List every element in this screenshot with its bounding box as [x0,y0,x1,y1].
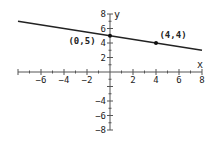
x-tick-label: −4 [59,75,70,85]
x-tick-label: −6 [36,75,47,85]
y-tick-label: −6 [95,111,106,121]
coordinate-plane: −6−4−224688642−4−6−8xy(0,5)(4,4) [0,0,215,145]
data-point [154,41,158,45]
y-tick-label: −8 [95,125,106,135]
x-axis-label: x [197,59,203,70]
y-tick-label: 4 [101,38,106,48]
y-tick-label: −4 [95,96,106,106]
y-tick-label: 6 [101,24,106,34]
x-tick-label: 4 [153,75,158,85]
data-point [108,34,112,38]
x-tick-label: −2 [82,75,93,85]
y-axis-label: y [114,9,120,20]
point-label: (0,5) [68,36,95,46]
x-tick-label: 6 [176,75,181,85]
point-label: (4,4) [159,30,186,40]
y-tick-label: 8 [101,9,106,19]
x-tick-label: 2 [130,75,135,85]
x-tick-label: 8 [199,75,204,85]
y-tick-label: 2 [101,53,106,63]
